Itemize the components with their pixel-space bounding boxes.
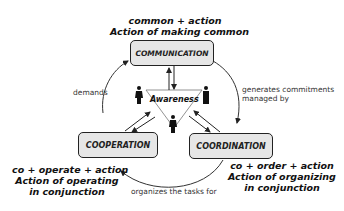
cooperation-meaning-2: in conjunction — [12, 186, 122, 197]
person-icon-left — [135, 86, 143, 104]
communication-node: COMMUNICATION — [130, 40, 214, 66]
edge-label-generates-2: managed by — [242, 94, 289, 103]
coordination-formula: co + order + action — [228, 160, 336, 171]
coordination-meaning-2: in conjunction — [228, 182, 336, 193]
edge-label-generates-1: generates commitments — [242, 85, 334, 94]
cooperation-formula: co + operate + action — [12, 164, 122, 175]
coordination-meaning-1: Action of organizing — [228, 171, 336, 182]
communication-formula: common + action — [110, 15, 240, 26]
communication-meaning: Action of making common — [110, 26, 240, 37]
person-icon-right — [203, 86, 209, 104]
edge-label-organizes: organizes the tasks for — [131, 187, 217, 196]
coordination-node: COORDINATION — [189, 133, 273, 159]
awareness-label: Awareness — [150, 95, 199, 104]
person-icon-center — [169, 115, 177, 133]
cooperation-meaning-1: Action of operating — [12, 175, 122, 186]
edge-label-demands: demands — [73, 88, 108, 97]
cooperation-node: COOPERATION — [78, 132, 158, 158]
